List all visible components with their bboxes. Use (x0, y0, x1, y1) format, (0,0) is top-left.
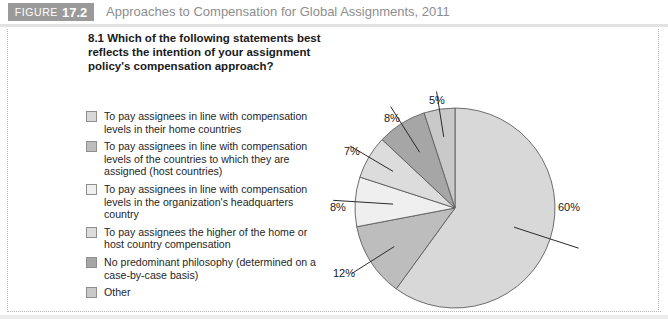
pie-label-8-hq: 8% (330, 201, 346, 213)
pie-chart: 60% 12% 8% 7% 8% 5% (330, 88, 660, 313)
legend-item-label: To pay assignees the higher of the home … (104, 226, 326, 251)
legend-item-label: To pay assignees in line with compensati… (104, 140, 326, 178)
pie-label-12: 12% (333, 267, 355, 279)
chart-legend: To pay assignees in line with compensati… (86, 110, 326, 304)
legend-swatch-icon (86, 287, 97, 298)
pie-label-8-nopred: 8% (384, 112, 400, 124)
legend-swatch-icon (86, 184, 97, 195)
pie-label-7: 7% (344, 145, 360, 157)
legend-item-label: No predominant philosophy (determined on… (104, 256, 326, 281)
figure-badge-word: FIGURE (15, 6, 58, 18)
footer-divider (0, 315, 668, 319)
legend-item-label: Other (104, 286, 131, 299)
legend-item-label: To pay assignees in line with compensati… (104, 183, 326, 221)
legend-item: No predominant philosophy (determined on… (86, 256, 326, 281)
pie-label-5: 5% (429, 94, 445, 106)
legend-swatch-icon (86, 111, 97, 122)
figure-title: Approaches to Compensation for Global As… (106, 3, 450, 21)
figure-panel: FIGURE 17.2 Approaches to Compensation f… (0, 0, 668, 322)
legend-item: Other (86, 286, 326, 299)
figure-number-badge: FIGURE 17.2 (8, 3, 94, 21)
header-divider (0, 24, 668, 27)
figure-badge-number: 17.2 (62, 5, 87, 20)
legend-item: To pay assignees in line with compensati… (86, 183, 326, 221)
figure-header: FIGURE 17.2 Approaches to Compensation f… (0, 0, 668, 26)
pie-label-60: 60% (558, 201, 580, 213)
legend-item: To pay assignees in line with compensati… (86, 110, 326, 135)
pie-chart-svg (330, 88, 660, 313)
legend-swatch-icon (86, 257, 97, 268)
legend-swatch-icon (86, 141, 97, 152)
legend-item-label: To pay assignees in line with compensati… (104, 110, 326, 135)
legend-swatch-icon (86, 227, 97, 238)
legend-item: To pay assignees the higher of the home … (86, 226, 326, 251)
question-text: 8.1 Which of the following statements be… (88, 31, 328, 74)
legend-item: To pay assignees in line with compensati… (86, 140, 326, 178)
